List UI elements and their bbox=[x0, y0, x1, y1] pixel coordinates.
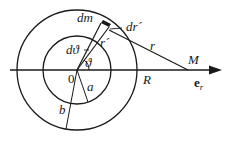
r-line bbox=[109, 30, 188, 70]
label-origin: 0 bbox=[68, 71, 75, 86]
label-b: b bbox=[59, 102, 66, 117]
label-theta: ϑ bbox=[85, 55, 92, 70]
label-dr-prime: dr´ bbox=[126, 19, 143, 34]
label-a: a bbox=[87, 79, 94, 94]
axis-arrow-icon bbox=[209, 66, 222, 75]
label-d-theta: dϑ bbox=[66, 42, 80, 57]
label-e-r-subscript: r bbox=[200, 82, 204, 92]
label-r: r bbox=[150, 38, 156, 53]
label-e-r: er bbox=[194, 75, 204, 92]
label-R: R bbox=[142, 72, 151, 87]
label-M: M bbox=[187, 52, 200, 67]
label-dm: dm bbox=[77, 10, 93, 25]
label-r-prime: r´ bbox=[100, 35, 110, 50]
mass-element-dm bbox=[101, 20, 111, 27]
shell-diagram: dm dr´ dϑ r´ ϑ 0 a b R r M er bbox=[0, 0, 227, 143]
